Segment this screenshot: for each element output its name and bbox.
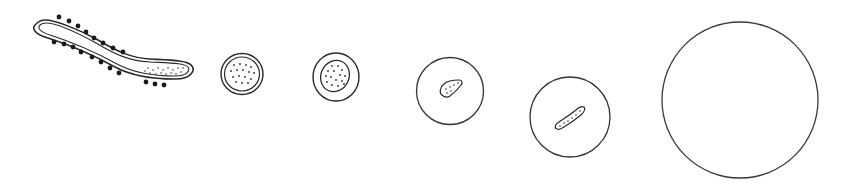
stage-1-elongated-spiked-cell	[34, 15, 193, 88]
diagram-canvas: Sequence of six hand-drawn cell stages, …	[0, 0, 849, 191]
stage-2-double-walled-dotted-cell	[221, 54, 263, 95]
cell-stages-figure	[0, 0, 849, 191]
stage-3-walled-cell-with-nucleus	[313, 53, 359, 101]
stage-5-circle-with-rod-body	[530, 77, 610, 157]
stage-4-circle-with-small-body	[417, 58, 484, 125]
stage-6-large-empty-circle	[662, 22, 818, 178]
